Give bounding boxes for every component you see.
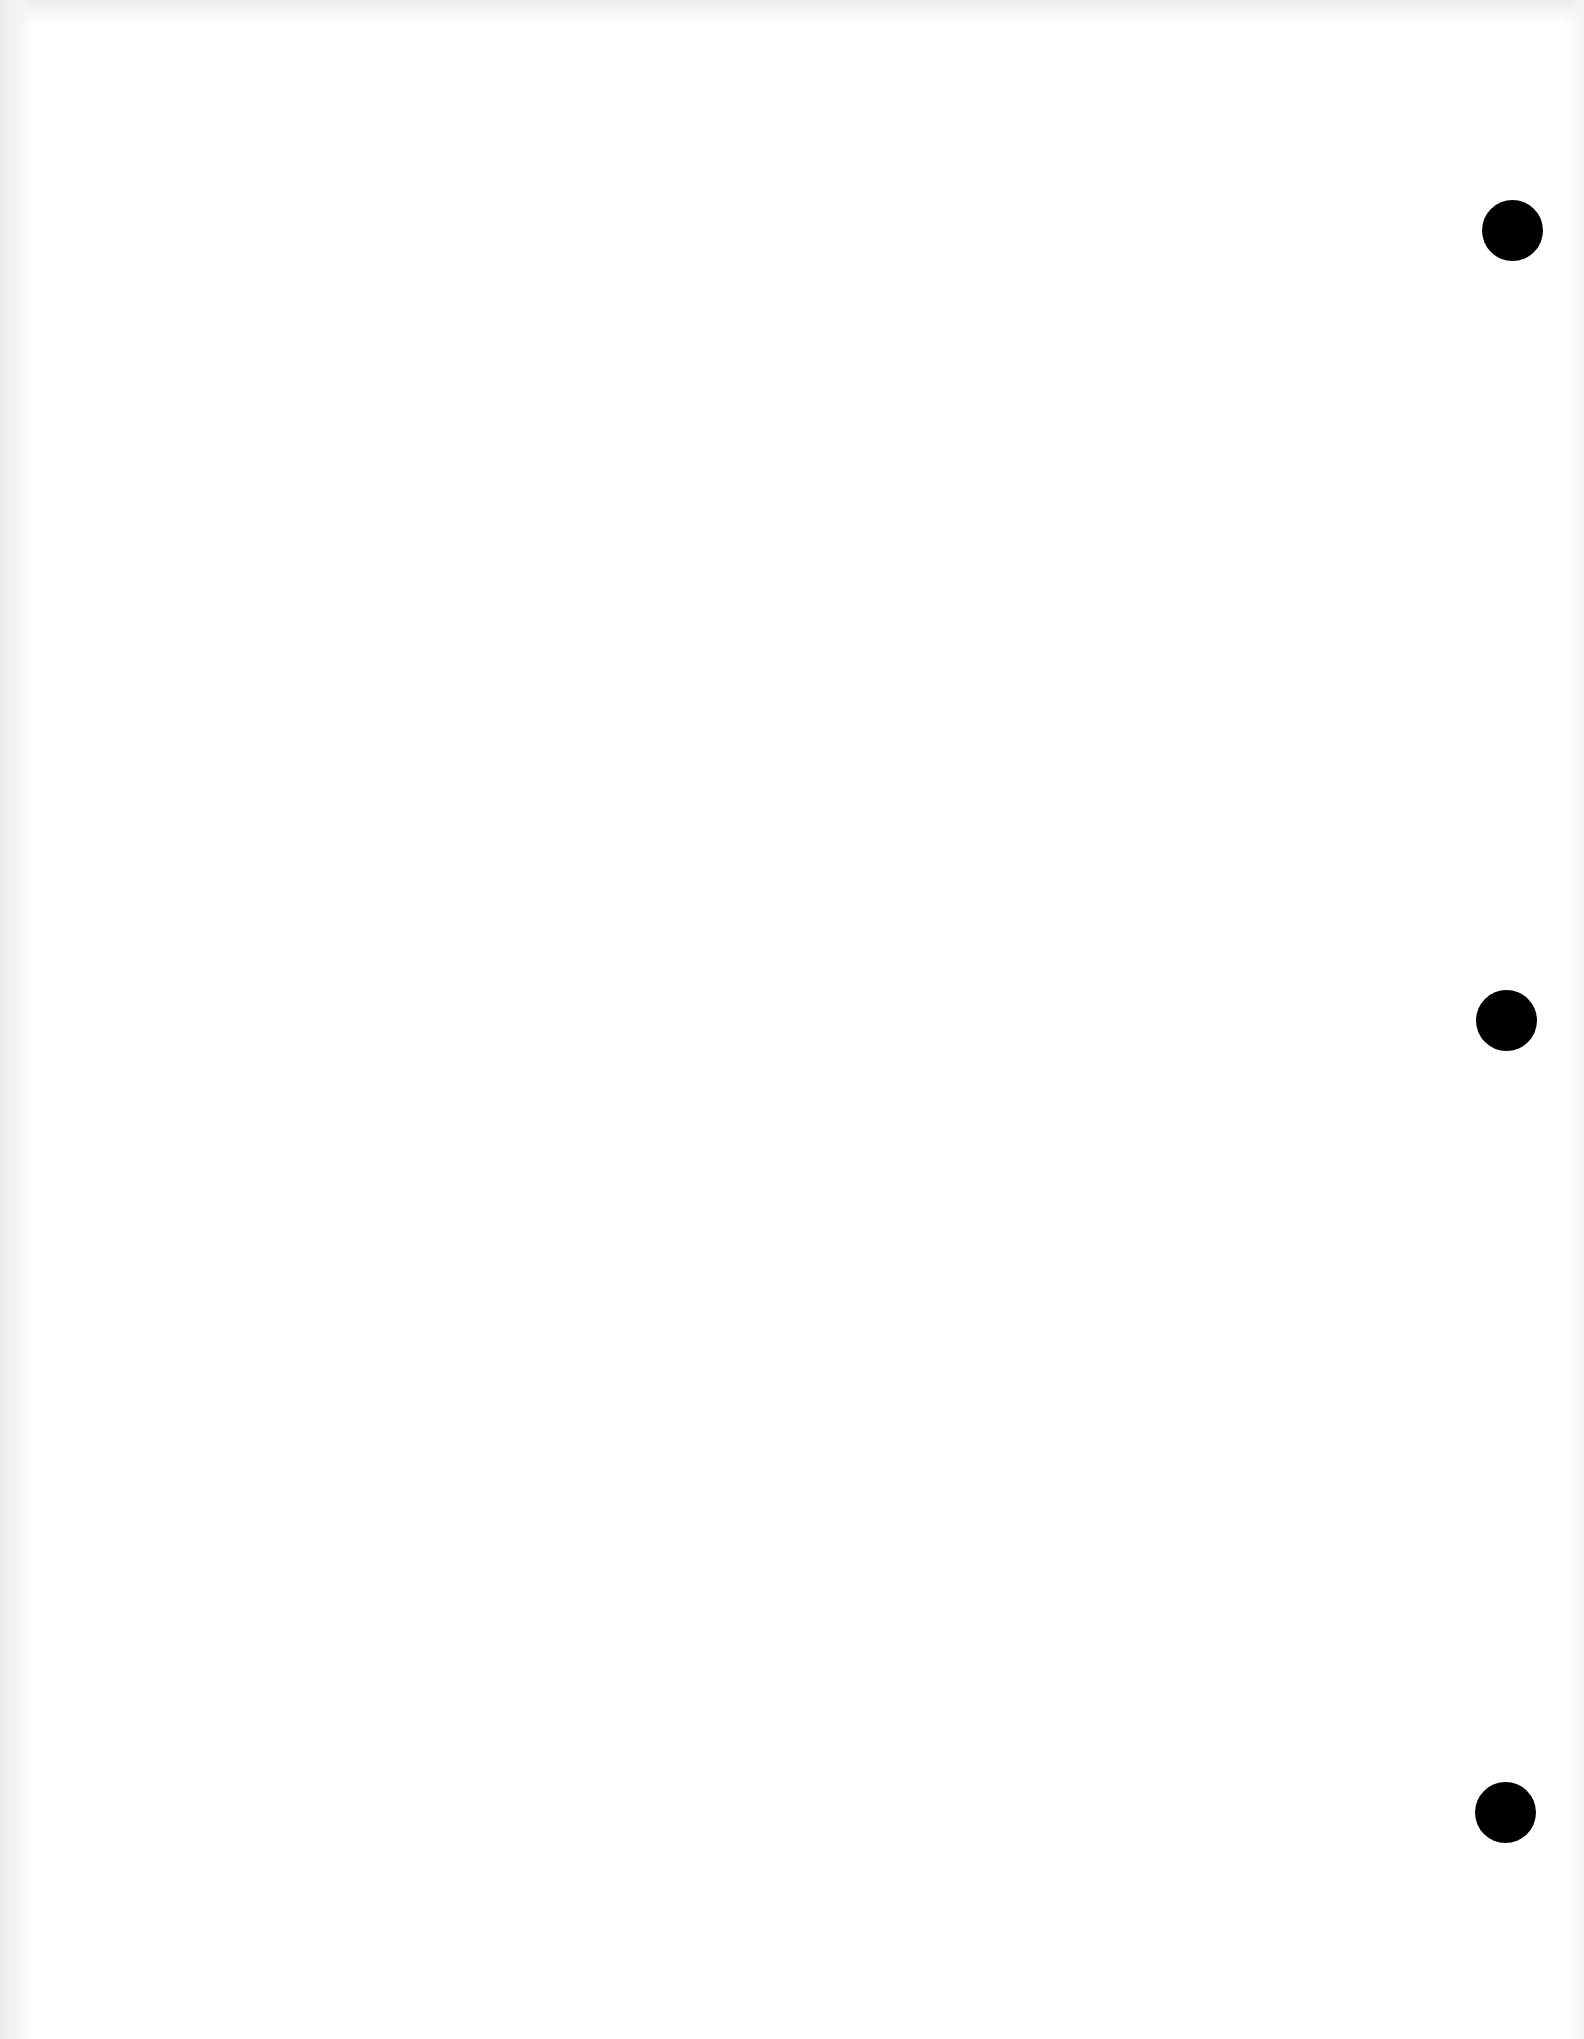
scan-shadow-top [0, 0, 1584, 24]
scan-shadow-left [0, 0, 34, 2039]
punch-hole-middle [1476, 990, 1537, 1051]
scan-shadow-right [1564, 0, 1584, 2039]
blank-page [0, 0, 1584, 2039]
punch-hole-bottom [1475, 1782, 1536, 1843]
punch-hole-top [1482, 200, 1543, 261]
